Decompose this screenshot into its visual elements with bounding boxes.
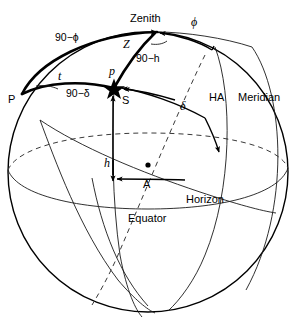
sphere-outline <box>8 32 288 312</box>
arc-declination-delta-lower <box>205 118 219 152</box>
label-angle-p: p <box>108 64 115 78</box>
label-equator: Equator <box>128 212 167 224</box>
label-meridian: Meridian <box>238 91 280 103</box>
star-hour-circle-lower <box>113 88 142 317</box>
label-altitude-symbol: h <box>104 156 110 170</box>
label-pole: P <box>8 93 15 105</box>
label-zenith: Zenith <box>130 12 161 24</box>
label-hour-angle: HA <box>209 91 225 103</box>
label-declination-symbol: δ <box>180 99 186 113</box>
label-angle-z: Z <box>123 37 130 51</box>
angle-arc-z <box>151 41 167 44</box>
label-colatitude: 90−ϕ <box>55 31 79 43</box>
azimuth-arc-lower <box>92 178 148 306</box>
label-latitude-symbol: ϕ <box>191 15 197 29</box>
label-zenith-distance: 90−h <box>136 52 160 64</box>
arc-latitude-phi <box>160 33 212 50</box>
label-observer: A <box>143 178 151 190</box>
meridian-circle <box>246 47 278 290</box>
celestial-sphere-svg: Zenith P S A Horizon Equator Meridian HA… <box>0 0 298 327</box>
arc-latitude-phi-tick <box>212 46 214 50</box>
arc-azimuth-horizon <box>117 179 185 180</box>
label-star: S <box>122 94 129 106</box>
label-horizon: Horizon <box>186 193 224 205</box>
celestial-sphere-diagram: Zenith P S A Horizon Equator Meridian HA… <box>0 0 298 327</box>
observer-center-dot <box>145 162 150 167</box>
hour-angle-circle <box>168 47 227 311</box>
arc-declination-delta-upper <box>122 88 205 118</box>
label-polar-distance: 90−δ <box>66 87 90 99</box>
label-angle-t: t <box>58 69 62 83</box>
